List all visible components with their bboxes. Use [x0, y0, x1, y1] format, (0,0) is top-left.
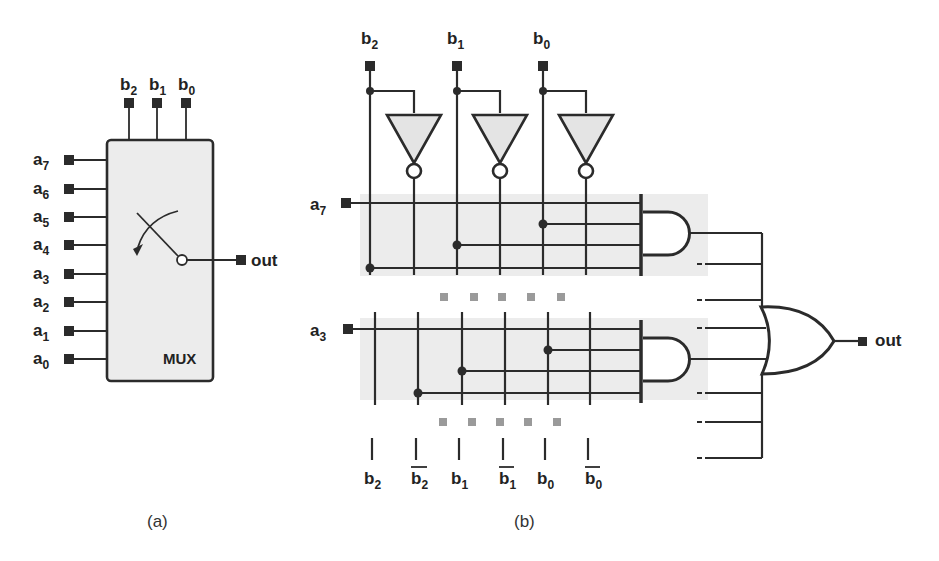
mux-figure: b2 b1 b0 a7 a6 a5 a4 a3 a2 a1 a0	[0, 0, 939, 561]
input-a3: a3	[33, 264, 107, 287]
select-pins-a: b2 b1 b0	[120, 75, 195, 140]
input-a2: a2	[33, 292, 107, 315]
inverter-b0-icon	[559, 115, 613, 178]
input-a5: a5	[33, 207, 107, 230]
svg-text:a1: a1	[33, 321, 49, 344]
pin-a7	[341, 198, 351, 208]
pin-b2	[124, 98, 134, 108]
input-a6: a6	[33, 179, 107, 202]
panel-b: b2 b1 b0	[310, 29, 902, 531]
or-gate-icon	[761, 307, 834, 374]
switch-node	[177, 255, 187, 265]
svg-text:b2: b2	[364, 469, 381, 492]
caption-b: (b)	[514, 512, 535, 531]
svg-text:b0: b0	[585, 469, 602, 492]
label-a3: a3	[310, 321, 326, 344]
svg-text:b0: b0	[537, 469, 554, 492]
caption-a: (a)	[147, 512, 168, 531]
label-b2-top: b2	[361, 29, 378, 52]
svg-text:a4: a4	[33, 235, 49, 258]
pin-b2-b	[365, 61, 375, 71]
pin-out-a	[236, 255, 246, 265]
svg-text:a3: a3	[33, 264, 49, 287]
inverter-b2-icon	[387, 115, 441, 178]
svg-text:a2: a2	[33, 292, 49, 315]
data-inputs-a: a7 a6 a5 a4 a3 a2 a1 a0	[33, 150, 107, 372]
inverter-b1-icon	[473, 115, 527, 178]
label-b0-a: b0	[178, 75, 195, 98]
panel-a: b2 b1 b0 a7 a6 a5 a4 a3 a2 a1 a0	[33, 75, 278, 531]
and-gate-a7-icon	[643, 212, 690, 255]
svg-text:a0: a0	[33, 349, 49, 372]
label-out-a: out	[251, 251, 278, 270]
svg-text:b1: b1	[499, 469, 516, 492]
pin-b0	[181, 98, 191, 108]
label-b0-top: b0	[533, 29, 550, 52]
mux-label: MUX	[163, 350, 196, 367]
input-a0: a0	[33, 349, 107, 372]
ellipsis-upper	[440, 293, 565, 301]
ellipsis-lower	[439, 418, 561, 426]
svg-text:a6: a6	[33, 179, 49, 202]
pin-out-b	[858, 337, 867, 346]
pin-a3	[343, 324, 353, 334]
label-a7: a7	[310, 195, 326, 218]
bus-labels: b2 b2 b1 b1 b0 b0	[364, 438, 602, 492]
svg-text:a5: a5	[33, 207, 49, 230]
pin-b1-b	[452, 61, 462, 71]
svg-text:b2: b2	[411, 469, 428, 492]
input-a7: a7	[33, 150, 107, 173]
label-b2-a: b2	[120, 75, 137, 98]
pin-b1	[152, 98, 162, 108]
and-gate-a3-icon	[643, 338, 690, 381]
input-a4: a4	[33, 235, 107, 258]
svg-text:a7: a7	[33, 150, 49, 173]
input-a1: a1	[33, 321, 107, 344]
label-b1-top: b1	[447, 29, 464, 52]
label-out-b: out	[875, 331, 902, 350]
svg-text:b1: b1	[451, 469, 468, 492]
pin-b0-b	[538, 61, 548, 71]
label-b1-a: b1	[149, 75, 166, 98]
